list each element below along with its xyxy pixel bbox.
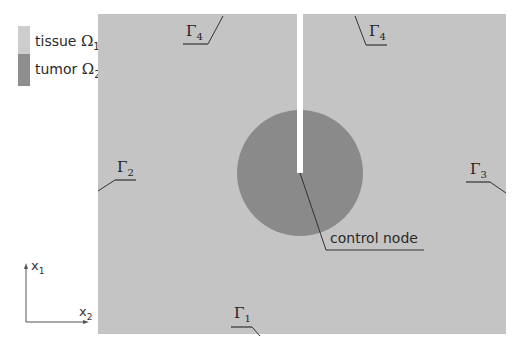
gamma-symbol: Γ: [186, 22, 196, 40]
gamma-symbol: Γ: [369, 22, 379, 40]
gamma-symbol: Γ: [470, 160, 480, 178]
gamma-symbol: Γ: [234, 304, 244, 322]
gamma3-leader: [490, 182, 506, 193]
gamma1-leader: [252, 327, 260, 336]
subscript: 2: [127, 167, 133, 178]
x1-arrow-icon: [24, 263, 28, 269]
subscript: 3: [480, 169, 486, 180]
x2-axis-label: x2: [79, 304, 92, 322]
gamma4-left-leader: [208, 16, 223, 44]
axis-symbol: x: [31, 258, 39, 273]
gamma4-right-leader: [355, 16, 366, 45]
subscript: 1: [39, 266, 45, 276]
subscript: 4: [379, 31, 385, 42]
gamma2-leader: [98, 180, 115, 191]
subscript: 1: [244, 313, 250, 324]
gamma-symbol: Γ: [117, 158, 127, 176]
gamma4-left-label: Γ4: [186, 22, 203, 42]
subscript: 2: [87, 312, 93, 322]
gamma3-label: Γ3: [470, 160, 487, 180]
x1-axis-label: x1: [31, 258, 44, 276]
gamma1-label: Γ1: [234, 304, 251, 324]
needle-probe: [297, 14, 303, 173]
gamma2-label: Γ2: [117, 158, 134, 178]
axis-symbol: x: [79, 304, 87, 319]
subscript: 4: [196, 31, 202, 42]
gamma4-right-label: Γ4: [369, 22, 386, 42]
control-node-label: control node: [330, 230, 418, 246]
